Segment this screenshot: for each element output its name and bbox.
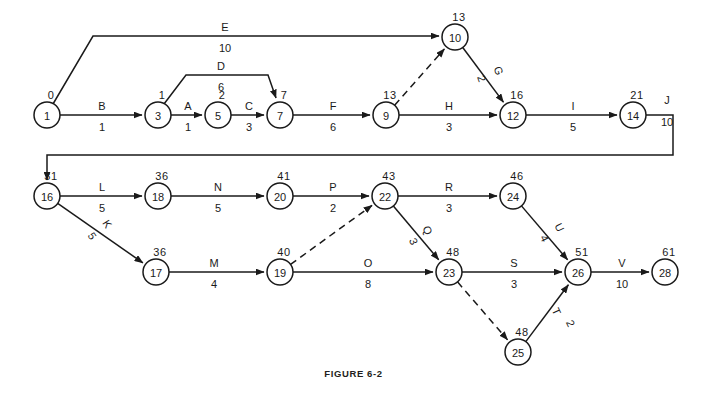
edge-label-U: U	[552, 221, 566, 233]
node-22[interactable]: 2243	[372, 170, 398, 209]
node-id-9: 9	[383, 110, 389, 122]
node-id-18: 18	[152, 191, 164, 203]
node-5[interactable]: 52	[205, 89, 231, 128]
edge-label-O: O	[364, 257, 373, 269]
node-id-7: 7	[277, 110, 283, 122]
node-id-1: 1	[44, 110, 50, 122]
edge-duration-P: 2	[330, 202, 336, 214]
figure-caption: FIGURE 6-2	[0, 368, 707, 379]
edge-duration-M: 4	[211, 278, 217, 290]
edge-duration-J: 10	[661, 116, 673, 128]
edge-duration-N: 5	[215, 202, 221, 214]
node-id-14: 14	[627, 110, 639, 122]
node-earliest-time-1: 0	[48, 89, 55, 101]
node-earliest-time-9: 13	[383, 89, 396, 101]
node-25[interactable]: 2548	[505, 326, 531, 365]
node-earliest-time-17: 36	[153, 246, 166, 258]
node-earliest-time-28: 61	[662, 246, 675, 258]
node-id-16: 16	[41, 191, 53, 203]
edge-label-M: M	[209, 257, 218, 269]
node-12[interactable]: 1216	[500, 89, 526, 128]
network-diagram-figure: 1031527791310131216142116311836204122432…	[0, 0, 707, 394]
edge-label-F: F	[330, 100, 337, 112]
node-id-10: 10	[449, 32, 461, 44]
network-diagram-canvas: 1031527791310131216142116311836204122432…	[0, 0, 707, 394]
edge-label-B: B	[98, 100, 105, 112]
edge-duration-G: 2	[475, 74, 488, 84]
edges-layer	[47, 36, 673, 342]
node-earliest-time-20: 41	[277, 170, 290, 182]
node-earliest-time-25: 48	[515, 326, 528, 338]
node-9[interactable]: 913	[373, 89, 399, 128]
edge-23-to-25-dummy	[457, 282, 507, 340]
edge-duration-C: 3	[246, 121, 252, 133]
edge-label-A: A	[184, 100, 192, 112]
edge-duration-O: 8	[365, 278, 371, 290]
edge-label-R: R	[445, 181, 453, 193]
node-earliest-time-7: 7	[281, 89, 288, 101]
node-earliest-time-26: 51	[575, 246, 588, 258]
edge-label-N: N	[214, 181, 222, 193]
edge-duration-T: 2	[564, 318, 577, 329]
node-16[interactable]: 1631	[34, 170, 60, 209]
edge-duration-D: 6	[218, 81, 224, 93]
node-earliest-time-19: 40	[277, 246, 290, 258]
edge-duration-A: 1	[185, 121, 191, 133]
edge-25-to-26-T	[526, 285, 569, 342]
node-id-5: 5	[215, 110, 221, 122]
edge-label-Q: Q	[420, 224, 435, 237]
edge-24-to-26-U	[521, 206, 567, 260]
edge-1-to-10-E	[53, 36, 439, 104]
edge-duration-V: 10	[616, 278, 628, 290]
node-17[interactable]: 1736	[143, 246, 169, 285]
node-earliest-time-10: 13	[452, 11, 465, 23]
node-24[interactable]: 2446	[500, 170, 526, 209]
edge-duration-R: 3	[446, 202, 452, 214]
node-3[interactable]: 31	[145, 89, 171, 128]
node-20[interactable]: 2041	[267, 170, 293, 209]
edge-label-J: J	[664, 94, 670, 106]
edge-label-I: I	[571, 100, 574, 112]
edge-duration-H: 3	[446, 121, 452, 133]
node-id-26: 26	[572, 267, 584, 279]
edge-duration-E: 10	[219, 42, 231, 54]
node-19[interactable]: 1940	[267, 246, 293, 285]
node-28[interactable]: 2861	[652, 246, 678, 285]
node-id-3: 3	[155, 110, 161, 122]
node-earliest-time-22: 43	[382, 170, 395, 182]
edge-9-to-10-dummy	[395, 49, 445, 105]
node-26[interactable]: 2651	[565, 246, 591, 285]
node-id-17: 17	[150, 267, 162, 279]
edge-14-to-16-J	[47, 115, 673, 180]
edge-label-D: D	[217, 60, 225, 72]
node-earliest-time-14: 21	[630, 89, 643, 101]
edge-duration-K: 5	[86, 230, 99, 242]
edge-label-V: V	[618, 257, 626, 269]
edge-label-H: H	[445, 100, 453, 112]
edge-duration-U: 4	[538, 233, 551, 244]
edge-duration-S: 3	[511, 278, 517, 290]
node-10[interactable]: 1013	[442, 11, 468, 50]
node-id-23: 23	[443, 267, 455, 279]
node-id-24: 24	[507, 191, 519, 203]
node-id-12: 12	[507, 110, 519, 122]
edge-label-K: K	[100, 217, 114, 230]
node-18[interactable]: 1836	[145, 170, 171, 209]
node-earliest-time-12: 16	[510, 89, 523, 101]
edge-label-L: L	[99, 181, 105, 193]
edge-label-S: S	[510, 257, 517, 269]
node-id-28: 28	[659, 267, 671, 279]
edge-19-to-22-dummy	[291, 205, 373, 264]
node-23[interactable]: 2348	[436, 246, 462, 285]
edge-duration-I: 5	[570, 121, 576, 133]
node-14[interactable]: 1421	[620, 89, 646, 128]
edge-label-C: C	[245, 100, 253, 112]
node-id-25: 25	[512, 347, 524, 359]
node-7[interactable]: 77	[267, 89, 293, 128]
edge-duration-L: 5	[99, 202, 105, 214]
node-earliest-time-16: 31	[44, 170, 57, 182]
node-1[interactable]: 10	[34, 89, 60, 128]
node-earliest-time-3: 1	[159, 89, 166, 101]
node-id-19: 19	[274, 267, 286, 279]
nodes-layer: 1031527791310131216142116311836204122432…	[34, 11, 678, 365]
